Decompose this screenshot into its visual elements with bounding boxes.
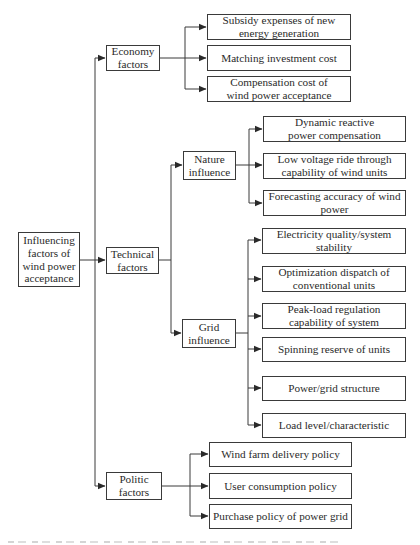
- nature-child-label: Low voltage ride through capability of w…: [270, 153, 399, 178]
- nature-influence-node: Nature influence: [183, 151, 236, 180]
- nature-child-node: Low voltage ride through capability of w…: [263, 153, 406, 179]
- grid-child-label: Load level/characteristic: [279, 419, 389, 432]
- grid-influence-label: Grid influence: [188, 321, 230, 346]
- economy-child-node: Compensation cost of wind power acceptan…: [207, 76, 351, 102]
- grid-child-node: Power/grid structure: [262, 376, 406, 401]
- grid-child-label: Optimization dispatch of conventional un…: [277, 266, 391, 291]
- grid-child-node: Load level/characteristic: [262, 413, 406, 438]
- grid-child-label: Electricity quality/system stability: [273, 228, 395, 253]
- grid-child-label: Peak-load regulation capability of syste…: [281, 303, 387, 328]
- technical-factors-label: Technical factors: [110, 248, 155, 273]
- economy-factors-label: Economy factors: [110, 45, 156, 70]
- economy-factors-node: Economy factors: [106, 45, 160, 71]
- politic-child-label: Purchase policy of power grid: [213, 510, 348, 523]
- politic-child-label: Wind farm delivery policy: [221, 448, 340, 461]
- economy-child-label: Matching investment cost: [221, 52, 337, 65]
- economy-child-node: Matching investment cost: [207, 45, 351, 71]
- politic-child-node: Purchase policy of power grid: [209, 504, 352, 529]
- nature-child-label: Dynamic reactive power compensation: [280, 116, 389, 141]
- nature-child-node: Dynamic reactive power compensation: [263, 116, 406, 142]
- politic-child-node: Wind farm delivery policy: [209, 442, 352, 467]
- grid-child-node: Peak-load regulation capability of syste…: [262, 303, 406, 329]
- economy-child-label: Compensation cost of wind power acceptan…: [218, 76, 340, 101]
- factor-tree-diagram: Influencing factors of wind power accept…: [0, 0, 420, 545]
- root-label: Influencing factors of wind power accept…: [21, 234, 77, 284]
- grid-child-label: Power/grid structure: [288, 382, 380, 395]
- root-node: Influencing factors of wind power accept…: [18, 232, 80, 287]
- grid-influence-node: Grid influence: [182, 319, 236, 348]
- grid-child-label: Spinning reserve of units: [278, 343, 390, 356]
- technical-factors-node: Technical factors: [106, 247, 159, 274]
- politic-child-label: User consumption policy: [224, 480, 336, 493]
- grid-child-node: Electricity quality/system stability: [262, 228, 406, 254]
- politic-factors-node: Politic factors: [106, 472, 162, 500]
- grid-child-node: Spinning reserve of units: [262, 337, 406, 362]
- nature-child-label: Forecasting accuracy of wind power: [268, 190, 401, 215]
- grid-child-node: Optimization dispatch of conventional un…: [262, 266, 406, 292]
- nature-child-node: Forecasting accuracy of wind power: [263, 190, 406, 216]
- politic-factors-label: Politic factors: [110, 473, 158, 498]
- economy-child-label: Subsidy expenses of new energy generatio…: [222, 14, 336, 39]
- economy-child-node: Subsidy expenses of new energy generatio…: [207, 14, 351, 40]
- politic-child-node: User consumption policy: [209, 473, 352, 499]
- caption-remnant: [8, 539, 338, 545]
- nature-influence-label: Nature influence: [189, 153, 231, 178]
